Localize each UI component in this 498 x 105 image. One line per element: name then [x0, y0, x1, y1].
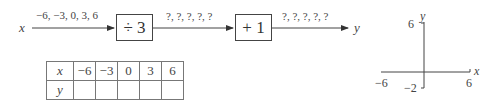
input-variable-label: x	[19, 20, 25, 36]
table-cell-y[interactable]	[74, 81, 96, 100]
y-axis-label: y	[420, 9, 425, 24]
mid-values-label: ?, ?, ?, ?, ?	[166, 10, 212, 22]
y-min-label: −2	[404, 81, 417, 96]
output-values-label: ?, ?, ?, ?, ?	[282, 10, 328, 22]
value-table: x −6 −3 0 3 6 y	[46, 61, 184, 100]
x-axis-label: x	[474, 64, 479, 79]
table-cell-x: −6	[74, 62, 96, 81]
plus-1-label: + 1	[242, 18, 264, 38]
table-cell-y[interactable]	[118, 81, 140, 100]
table-cell-y[interactable]	[140, 81, 162, 100]
divide-by-3-label: ÷ 3	[123, 18, 145, 38]
input-values-label: −6, −3, 0, 3, 6	[36, 9, 98, 21]
x-min-label: −6	[375, 76, 388, 91]
table-cell-y[interactable]	[96, 81, 118, 100]
divide-by-3-box: ÷ 3	[116, 14, 153, 41]
plus-1-box: + 1	[235, 14, 272, 41]
table-cell-x: −3	[96, 62, 118, 81]
table-cell-x: 6	[162, 62, 184, 81]
output-variable-label: y	[354, 20, 360, 36]
table-header-y: y	[47, 81, 74, 100]
table-cell-y[interactable]	[162, 81, 184, 100]
x-max-label: 6	[466, 76, 472, 91]
table-header-x: x	[47, 62, 74, 81]
y-max-label: 6	[408, 17, 414, 32]
table-cell-x: 0	[118, 62, 140, 81]
table-row-x: x −6 −3 0 3 6	[47, 62, 184, 81]
table-cell-x: 3	[140, 62, 162, 81]
table-row-y: y	[47, 81, 184, 100]
